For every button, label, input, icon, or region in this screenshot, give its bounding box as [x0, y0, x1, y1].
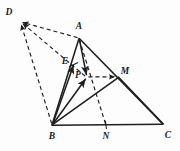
- label-point-b: B: [49, 132, 55, 142]
- segment-b-to-m: [53, 77, 119, 124]
- solid-triangle-lines: [52, 39, 163, 126]
- segment-b-e: [53, 66, 74, 125]
- label-point-n: N: [103, 132, 110, 142]
- geometry-canvas: [0, 0, 180, 151]
- dashed-d-b: [21, 25, 51, 124]
- label-point-d: D: [6, 8, 13, 18]
- label-point-m: M: [121, 67, 129, 77]
- label-point-p: P: [75, 71, 81, 81]
- segment-m-to-c: [119, 77, 163, 123]
- segment-b-c: [52, 124, 163, 125]
- segment-b-p: [53, 79, 86, 124]
- label-point-c: C: [165, 131, 171, 141]
- label-point-a: A: [76, 22, 82, 32]
- tick-n: [105, 121, 106, 129]
- geometry-figure: D A E P M B N C: [0, 0, 180, 151]
- label-point-e: E: [62, 57, 68, 67]
